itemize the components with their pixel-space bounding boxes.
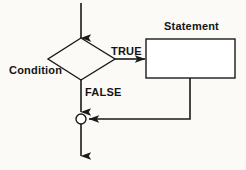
true-branch-label: TRUE bbox=[111, 46, 142, 57]
statement-label: Statement bbox=[164, 21, 219, 32]
merge-junction-circle bbox=[76, 114, 86, 124]
false-branch-label: FALSE bbox=[85, 87, 121, 98]
return-path-arrow bbox=[89, 78, 190, 119]
flowchart-canvas: Condition Statement TRUE FALSE bbox=[0, 0, 246, 170]
statement-box bbox=[146, 39, 235, 78]
condition-label: Condition bbox=[9, 65, 62, 76]
